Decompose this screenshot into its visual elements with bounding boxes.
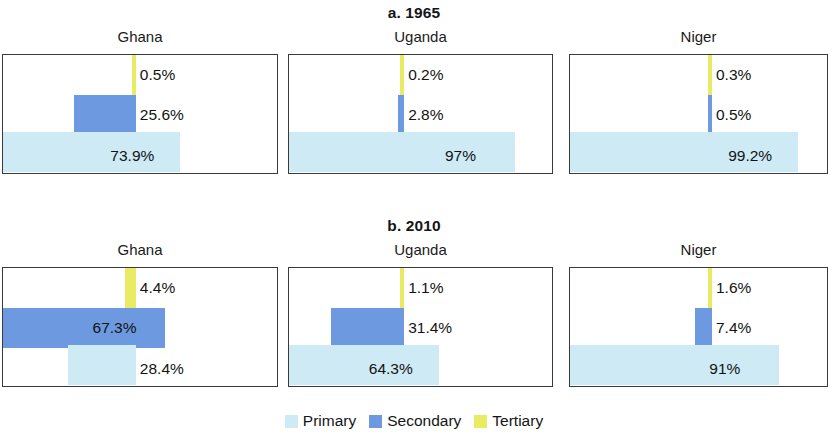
bar-row-primary: 99.2%: [570, 132, 827, 172]
plot-area: 4.4%67.3%28.4%: [2, 267, 278, 387]
bar-tertiary: [708, 55, 712, 95]
panel-title-country: Ghana: [2, 28, 278, 45]
bar-value-label: 28.4%: [140, 361, 184, 377]
bar-secondary: [708, 95, 712, 135]
bar-value-label: 67.3%: [93, 320, 137, 336]
panel-niger: Niger0.3%0.5%99.2%: [569, 28, 828, 183]
bar-value-label: 25.6%: [140, 107, 184, 123]
legend-swatch-secondary-icon: [369, 415, 382, 428]
bar-row-secondary: 2.8%: [289, 95, 552, 135]
panel-group: Ghana4.4%67.3%28.4%Uganda1.1%31.4%64.3%N…: [0, 241, 828, 401]
bar-tertiary: [400, 268, 404, 308]
bar-value-label: 2.8%: [408, 107, 443, 123]
legend-item-tertiary: Tertiary: [474, 412, 543, 430]
legend-label: Tertiary: [492, 412, 543, 430]
bar-primary: [289, 345, 439, 385]
bar-value-label: 73.9%: [110, 148, 154, 164]
chart-legend: PrimarySecondaryTertiary: [0, 412, 828, 430]
bar-row-secondary: 0.5%: [570, 95, 827, 135]
bar-secondary: [74, 95, 135, 135]
bar-value-label: 4.4%: [140, 280, 175, 296]
panel-ghana: Ghana0.5%25.6%73.9%: [2, 28, 278, 183]
bar-row-tertiary: 0.2%: [289, 55, 552, 95]
bar-secondary: [3, 308, 165, 348]
bar-row-primary: 97%: [289, 132, 552, 172]
bar-value-label: 31.4%: [408, 320, 452, 336]
panel-uganda: Uganda1.1%31.4%64.3%: [288, 241, 553, 396]
bar-secondary: [695, 308, 712, 348]
bar-row-secondary: 25.6%: [3, 95, 277, 135]
bar-secondary: [398, 95, 405, 135]
legend-swatch-tertiary-icon: [474, 415, 487, 428]
bar-row-secondary: 67.3%: [3, 308, 277, 348]
bar-primary: [289, 132, 515, 172]
panel-ghana: Ghana4.4%67.3%28.4%: [2, 241, 278, 396]
bar-secondary: [331, 308, 404, 348]
panel-title-country: Niger: [569, 28, 828, 45]
legend-label: Secondary: [387, 412, 461, 430]
bar-row-tertiary: 4.4%: [3, 268, 277, 308]
section-title: b. 2010: [0, 217, 828, 235]
legend-swatch-primary-icon: [285, 415, 298, 428]
bar-primary: [68, 345, 136, 385]
plot-area: 1.6%7.4%91%: [569, 267, 828, 387]
figure-root: a. 1965Ghana0.5%25.6%73.9%Uganda0.2%2.8%…: [0, 0, 828, 439]
legend-label: Primary: [303, 412, 356, 430]
bar-row-primary: 28.4%: [3, 345, 277, 385]
panel-niger: Niger1.6%7.4%91%: [569, 241, 828, 396]
bar-value-label: 7.4%: [716, 320, 751, 336]
plot-area: 0.3%0.5%99.2%: [569, 54, 828, 174]
bar-value-label: 0.3%: [716, 67, 751, 83]
bar-value-label: 0.2%: [408, 67, 443, 83]
panel-title-country: Uganda: [288, 28, 553, 45]
bar-primary: [570, 345, 779, 385]
panel-uganda: Uganda0.2%2.8%97%: [288, 28, 553, 183]
bar-row-tertiary: 0.3%: [570, 55, 827, 95]
panel-group: Ghana0.5%25.6%73.9%Uganda0.2%2.8%97%Nige…: [0, 28, 828, 188]
bar-row-secondary: 7.4%: [570, 308, 827, 348]
panel-title-country: Niger: [569, 241, 828, 258]
bar-value-label: 0.5%: [716, 107, 751, 123]
plot-area: 1.1%31.4%64.3%: [288, 267, 553, 387]
bar-value-label: 1.6%: [716, 280, 751, 296]
bar-row-primary: 64.3%: [289, 345, 552, 385]
panel-title-country: Uganda: [288, 241, 553, 258]
bar-row-tertiary: 1.1%: [289, 268, 552, 308]
bar-value-label: 97%: [445, 148, 476, 164]
plot-area: 0.2%2.8%97%: [288, 54, 553, 174]
bar-value-label: 99.2%: [728, 148, 772, 164]
section-title: a. 1965: [0, 4, 828, 22]
bar-tertiary: [125, 268, 136, 308]
bar-value-label: 1.1%: [408, 280, 443, 296]
bar-tertiary: [132, 55, 136, 95]
plot-area: 0.5%25.6%73.9%: [2, 54, 278, 174]
bar-tertiary: [708, 268, 712, 308]
bar-row-tertiary: 0.5%: [3, 55, 277, 95]
bar-value-label: 91%: [709, 361, 740, 377]
bar-row-primary: 91%: [570, 345, 827, 385]
legend-item-secondary: Secondary: [369, 412, 461, 430]
bar-row-secondary: 31.4%: [289, 308, 552, 348]
bar-row-tertiary: 1.6%: [570, 268, 827, 308]
bar-value-label: 0.5%: [140, 67, 175, 83]
bar-row-primary: 73.9%: [3, 132, 277, 172]
bar-value-label: 64.3%: [369, 361, 413, 377]
panel-title-country: Ghana: [2, 241, 278, 258]
legend-item-primary: Primary: [285, 412, 356, 430]
bar-tertiary: [400, 55, 404, 95]
